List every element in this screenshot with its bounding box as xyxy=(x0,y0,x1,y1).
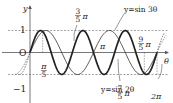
label-7pi-over-5-den: 5 xyxy=(118,92,123,101)
y-axis-arrow xyxy=(28,5,32,9)
fraction-labels: π535π75π95π xyxy=(40,7,151,101)
theta-axis-label: θ xyxy=(164,57,169,66)
y-tick-1: 1 xyxy=(20,25,26,35)
leader-sin3 xyxy=(115,14,124,30)
theta-axis-arrow xyxy=(165,51,169,55)
x-label-2pi: 2π xyxy=(150,92,162,101)
label-pi-over-5-den: 5 xyxy=(42,70,47,79)
label-pi-over-5: π5 xyxy=(40,62,47,79)
y-axis-label: y xyxy=(22,4,28,13)
leader-7pi5 xyxy=(118,59,120,81)
sin2-ext-right xyxy=(157,35,166,52)
origin-label: O xyxy=(19,48,26,58)
label-9pi-over-5-suffix: π xyxy=(145,40,152,49)
label-3pi-over-5-suffix: π xyxy=(82,12,89,21)
label-3pi-over-5-den: 5 xyxy=(76,15,81,24)
label-7pi-over-5-suffix: π xyxy=(124,89,131,98)
label-9pi-over-5: 95π xyxy=(138,35,152,52)
label-9pi-over-5-den: 5 xyxy=(139,43,144,52)
label-3pi-over-5: 35π xyxy=(75,7,89,24)
leader-2pi xyxy=(158,64,162,79)
y-tick-minus-1: −1 xyxy=(13,84,26,94)
x-label-pi: π xyxy=(99,42,106,51)
sine-graph: y θ O 1 −1 y=sin 3θ y=sin 2θ π 2π π535π7… xyxy=(0,0,173,103)
sin3-ext-right xyxy=(157,33,164,52)
sin3-label: y=sin 3θ xyxy=(123,5,158,14)
